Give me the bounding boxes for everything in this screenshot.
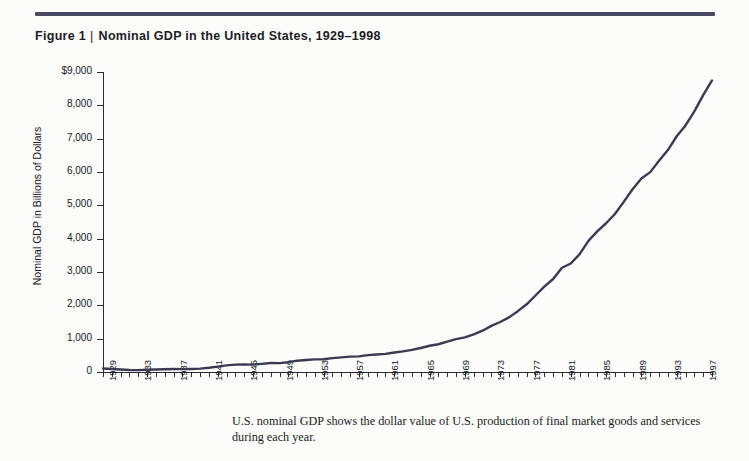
figure-caption: U.S. nominal GDP shows the dollar value … bbox=[232, 413, 722, 446]
title-separator: | bbox=[90, 29, 94, 43]
gdp-line-series bbox=[0, 55, 749, 395]
figure-title-text: Nominal GDP in the United States, 1929–1… bbox=[99, 29, 381, 43]
figure-number: Figure 1 bbox=[35, 29, 86, 43]
chart-area: Nominal GDP in Billions of Dollars 01,00… bbox=[0, 55, 749, 395]
top-rule-divider bbox=[35, 12, 715, 16]
figure-page: Figure 1|Nominal GDP in the United State… bbox=[0, 0, 749, 461]
figure-title: Figure 1|Nominal GDP in the United State… bbox=[35, 29, 381, 43]
gdp-line-path bbox=[103, 80, 712, 370]
